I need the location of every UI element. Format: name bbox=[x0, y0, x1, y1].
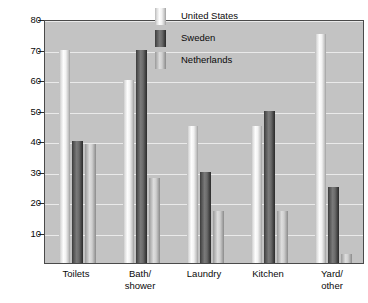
x-axis-label: Yard/other bbox=[300, 268, 364, 291]
y-axis-tick-label: 10 bbox=[11, 229, 41, 239]
x-axis-label: Bath/shower bbox=[108, 268, 172, 291]
x-axis-label: Toilets bbox=[44, 268, 108, 280]
y-axis-tick-label: 20 bbox=[11, 198, 41, 208]
bar bbox=[136, 50, 147, 264]
x-axis-labels: ToiletsBath/showerLaundryKitchenYard/oth… bbox=[44, 268, 364, 302]
water-usage-bar-chart: Liters of water per person per day 10203… bbox=[0, 0, 368, 303]
y-axis-tick-label: 80 bbox=[11, 15, 41, 25]
bar bbox=[328, 187, 339, 263]
legend-item: Sweden bbox=[155, 28, 315, 50]
legend-item: Netherlands bbox=[155, 50, 315, 72]
legend-swatch bbox=[155, 8, 166, 25]
bar bbox=[85, 144, 96, 263]
bar bbox=[149, 178, 160, 263]
bar bbox=[277, 211, 288, 263]
legend: United StatesSwedenNetherlands bbox=[155, 6, 315, 72]
x-axis-label-line: Toilets bbox=[44, 268, 108, 280]
y-axis-tick-label: 70 bbox=[11, 46, 41, 56]
legend-label: Netherlands bbox=[181, 54, 232, 65]
x-axis-label-line: Kitchen bbox=[236, 268, 300, 280]
bar bbox=[251, 126, 262, 263]
legend-label: Sweden bbox=[181, 32, 215, 43]
y-axis-tick-label: 30 bbox=[11, 168, 41, 178]
y-axis-tick-label: 50 bbox=[11, 107, 41, 117]
y-axis-tick-label: 40 bbox=[11, 137, 41, 147]
bar bbox=[264, 111, 275, 264]
x-axis-label: Kitchen bbox=[236, 268, 300, 280]
bar bbox=[123, 80, 134, 263]
x-axis-label-line: shower bbox=[108, 280, 172, 292]
bar bbox=[72, 141, 83, 263]
legend-item: United States bbox=[155, 6, 315, 28]
x-axis-label-line: Laundry bbox=[172, 268, 236, 280]
x-axis-label-line: other bbox=[300, 280, 364, 292]
y-axis-tick-label: 60 bbox=[11, 76, 41, 86]
bar bbox=[341, 254, 352, 263]
bar bbox=[213, 211, 224, 263]
x-axis-label-line: Bath/ bbox=[108, 268, 172, 280]
bar bbox=[200, 172, 211, 264]
x-axis-label: Laundry bbox=[172, 268, 236, 280]
legend-swatch bbox=[155, 52, 166, 69]
x-axis-label-line: Yard/ bbox=[300, 268, 364, 280]
legend-label: United States bbox=[181, 10, 238, 21]
bar bbox=[187, 126, 198, 263]
bar bbox=[315, 34, 326, 263]
legend-swatch bbox=[155, 30, 166, 47]
bar bbox=[59, 50, 70, 264]
